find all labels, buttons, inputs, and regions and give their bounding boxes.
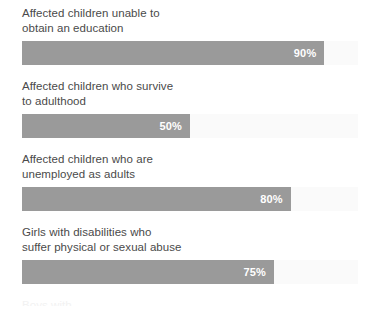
bar-track: 75% — [22, 260, 358, 284]
bar-label: Affected children unable to obtain an ed… — [22, 6, 358, 35]
stat-block: Girls with disabilities who suffer physi… — [22, 225, 358, 284]
bar-value: 75% — [243, 267, 266, 278]
bar-track: 90% — [22, 41, 358, 65]
stat-block: Affected children who survive to adultho… — [22, 79, 358, 138]
bar-track: 80% — [22, 187, 358, 211]
bar-fill: 90% — [22, 41, 324, 65]
stat-block: Affected children unable to obtain an ed… — [22, 6, 358, 65]
bar-label-truncated: Boys with — [22, 298, 358, 306]
bar-fill: 80% — [22, 187, 291, 211]
bar-value: 90% — [294, 48, 317, 59]
bar-label: Affected children who survive to adultho… — [22, 79, 358, 108]
bar-label: Affected children who are unemployed as … — [22, 152, 358, 181]
bar-value: 50% — [159, 121, 182, 132]
bar-fill: 75% — [22, 260, 274, 284]
bar-value: 80% — [260, 194, 283, 205]
bar-track: 50% — [22, 114, 358, 138]
truncated-label-clip: Boys with — [22, 298, 358, 306]
bar-fill: 50% — [22, 114, 190, 138]
stat-block-truncated: Boys with — [22, 298, 358, 306]
bar-chart: Affected children unable to obtain an ed… — [0, 0, 370, 309]
bar-label: Girls with disabilities who suffer physi… — [22, 225, 358, 254]
stat-block: Affected children who are unemployed as … — [22, 152, 358, 211]
